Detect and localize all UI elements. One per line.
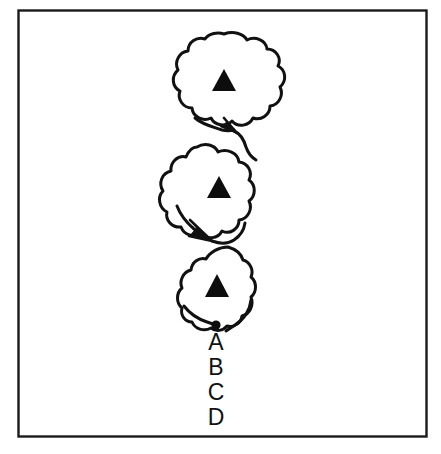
label-d: D: [208, 404, 225, 430]
blob-1-group: [173, 33, 284, 126]
blob-2-group: [160, 145, 255, 238]
label-b: B: [208, 354, 223, 380]
label-c: C: [208, 379, 225, 405]
label-a: A: [208, 329, 224, 355]
blob-2-outline: [160, 145, 255, 238]
figure-container: A B C D: [0, 0, 441, 454]
figure-canvas: A B C D: [0, 0, 441, 454]
